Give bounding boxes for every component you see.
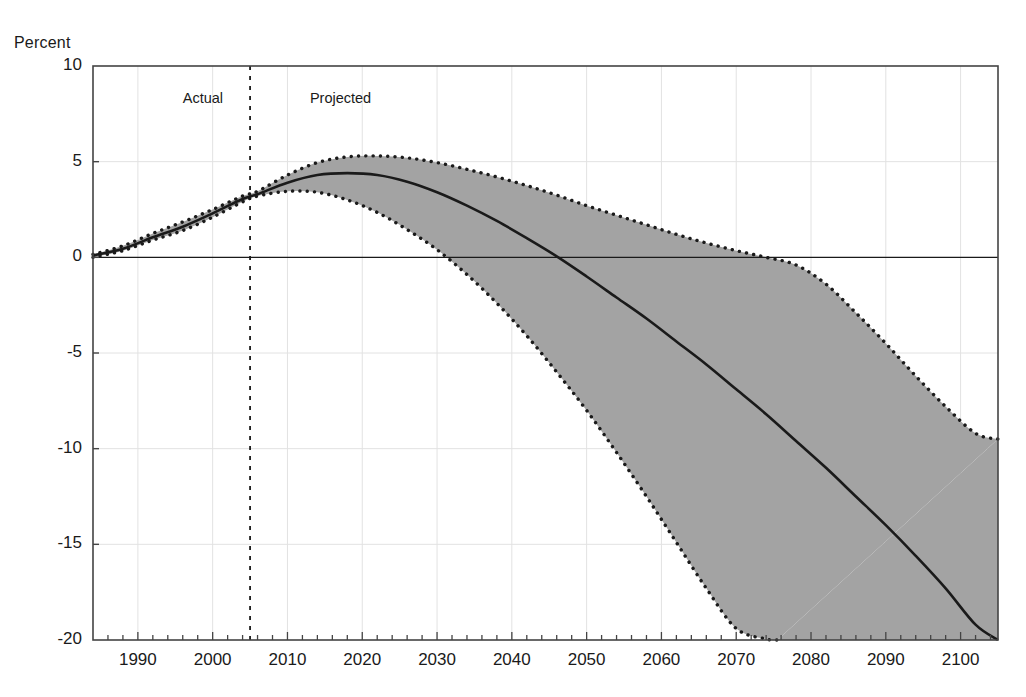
- x-tick-label: 2030: [397, 650, 477, 670]
- x-tick-label: 2060: [621, 650, 701, 670]
- x-tick-label: 2090: [846, 650, 926, 670]
- y-tick-label: 0: [18, 246, 82, 266]
- x-tick-label: 2080: [771, 650, 851, 670]
- y-tick-label: -20: [18, 629, 82, 649]
- x-tick-label: 1990: [98, 650, 178, 670]
- y-tick-label: 10: [18, 55, 82, 75]
- x-tick-label: 2040: [472, 650, 552, 670]
- x-tick-label: 2020: [322, 650, 402, 670]
- x-tick-label: 2100: [921, 650, 1001, 670]
- x-tick-label: 2050: [547, 650, 627, 670]
- x-tick-label: 2070: [696, 650, 776, 670]
- projection-range-band: [93, 156, 998, 640]
- y-tick-label: -5: [18, 342, 82, 362]
- projected-label: Projected: [310, 90, 371, 106]
- actual-label: Actual: [183, 90, 223, 106]
- x-tick-label: 2010: [247, 650, 327, 670]
- chart-figure: Percent 1050-5-10-15-20 1990200020102020…: [0, 0, 1026, 697]
- x-tick-label: 2000: [173, 650, 253, 670]
- y-tick-label: -10: [18, 438, 82, 458]
- plot-canvas: [0, 0, 1026, 697]
- y-tick-label: -15: [18, 533, 82, 553]
- y-axis-title: Percent: [14, 34, 71, 52]
- y-tick-label: 5: [18, 151, 82, 171]
